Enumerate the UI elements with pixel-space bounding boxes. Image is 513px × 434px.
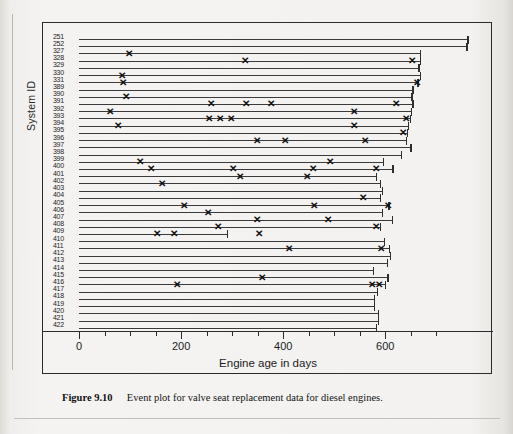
y-axis-tick-label: 409 bbox=[53, 227, 64, 234]
y-axis-tick-label: 408 bbox=[53, 220, 64, 227]
lifetime-line bbox=[79, 227, 380, 228]
lifetime-line bbox=[79, 306, 374, 307]
lifetime-line bbox=[79, 299, 374, 300]
lifetime-line bbox=[79, 220, 392, 221]
x-tick-label: 0 bbox=[76, 340, 82, 352]
lifetime-line bbox=[79, 198, 380, 199]
y-axis-tick-label: 392 bbox=[53, 105, 64, 112]
x-axis: 0200400600 Engine age in days bbox=[43, 331, 493, 375]
y-axis-tick-label: 398 bbox=[53, 148, 64, 155]
y-axis-tick-label: 400 bbox=[53, 162, 64, 169]
y-axis-tick-label: 418 bbox=[53, 292, 64, 299]
y-axis-tick-label: 422 bbox=[53, 321, 64, 328]
lifetime-line bbox=[79, 205, 388, 206]
lifetime-line bbox=[79, 313, 378, 314]
x-tick-minor bbox=[232, 332, 233, 336]
y-axis-tick-label: 402 bbox=[53, 177, 64, 184]
x-tick-minor bbox=[258, 332, 259, 336]
lifetime-line bbox=[79, 321, 378, 322]
figure-frame: System ID 251252327✕328✕✕329330✕331✕✕389… bbox=[42, 22, 492, 374]
x-tick-minor bbox=[105, 332, 106, 336]
y-axis-tick-label: 328 bbox=[53, 54, 64, 61]
y-axis-tick-label: 252 bbox=[53, 40, 64, 47]
lifetime-line bbox=[79, 191, 382, 192]
y-axis-tick-label: 397 bbox=[53, 141, 64, 148]
lifetime-line bbox=[79, 140, 406, 141]
y-axis-tick-label: 412 bbox=[53, 249, 64, 256]
lifetime-line bbox=[79, 263, 387, 264]
y-axis-tick-label: 389 bbox=[53, 83, 64, 90]
y-axis-tick-label: 413 bbox=[53, 256, 64, 263]
lifetime-line bbox=[79, 176, 376, 177]
x-tick-major bbox=[79, 332, 80, 339]
lifetime-line bbox=[79, 46, 466, 47]
x-tick-major bbox=[283, 332, 284, 339]
plot-area: 251252327✕328✕✕329330✕331✕✕389390✕391✕✕✕… bbox=[43, 23, 493, 375]
figure-caption: Figure 9.10 Event plot for valve seat re… bbox=[62, 392, 462, 403]
y-axis-tick-label: 420 bbox=[53, 307, 64, 314]
y-axis-tick-label: 421 bbox=[53, 314, 64, 321]
x-tick-minor bbox=[156, 332, 157, 336]
y-axis-tick-label: 327 bbox=[53, 47, 64, 54]
x-tick-label: 400 bbox=[274, 340, 292, 352]
lifetime-line bbox=[79, 68, 418, 69]
lifetime-line bbox=[79, 133, 407, 134]
y-axis-tick-label: 416 bbox=[53, 278, 64, 285]
x-tick-label: 200 bbox=[172, 340, 190, 352]
y-axis-tick-label: 401 bbox=[53, 170, 64, 177]
x-tick-minor bbox=[130, 332, 131, 336]
y-axis-tick-label: 407 bbox=[53, 213, 64, 220]
lifetime-line bbox=[79, 284, 385, 285]
x-tick-label: 600 bbox=[376, 340, 394, 352]
y-axis-tick-label: 414 bbox=[53, 264, 64, 271]
y-axis-tick-label: 399 bbox=[53, 155, 64, 162]
y-axis-tick-label: 396 bbox=[53, 134, 64, 141]
lifetime-line bbox=[79, 277, 387, 278]
y-axis-tick-label: 405 bbox=[53, 199, 64, 206]
x-axis-line bbox=[43, 331, 493, 332]
event-rows: 251252327✕328✕✕329330✕331✕✕389390✕391✕✕✕… bbox=[43, 23, 493, 375]
y-axis-tick-label: 411 bbox=[53, 242, 63, 249]
lifetime-line bbox=[79, 155, 401, 156]
y-axis-tick-label: 404 bbox=[53, 191, 64, 198]
x-tick-minor bbox=[411, 332, 412, 336]
y-axis-tick-label: 410 bbox=[53, 235, 64, 242]
y-axis-tick-label: 390 bbox=[53, 90, 64, 97]
x-tick-major bbox=[385, 332, 386, 339]
caption-figure-number: Figure 9.10 bbox=[62, 392, 113, 403]
y-axis-tick-label: 419 bbox=[53, 300, 64, 307]
lifetime-line bbox=[79, 256, 390, 257]
y-axis-tick-label: 406 bbox=[53, 206, 64, 213]
y-axis-tick-label: 331 bbox=[53, 76, 64, 83]
y-axis-label: System ID bbox=[25, 81, 37, 131]
lifetime-line bbox=[79, 75, 420, 76]
x-tick-minor bbox=[360, 332, 361, 336]
lifetime-line bbox=[79, 328, 376, 329]
lifetime-line bbox=[79, 126, 408, 127]
lifetime-line bbox=[79, 241, 384, 242]
caption-description: Event plot for valve seat replacement da… bbox=[127, 392, 383, 403]
x-tick-minor bbox=[436, 332, 437, 336]
scan-edge-left bbox=[12, 14, 13, 370]
y-axis-tick-label: 391 bbox=[53, 97, 64, 104]
lifetime-line bbox=[79, 82, 417, 83]
y-axis-tick-label: 251 bbox=[53, 33, 64, 40]
lifetime-line bbox=[79, 183, 380, 184]
y-axis-tick-label: 394 bbox=[53, 119, 64, 126]
x-tick-minor bbox=[207, 332, 208, 336]
lifetime-line bbox=[79, 147, 410, 148]
x-tick-minor bbox=[309, 332, 310, 336]
y-axis-tick-label: 329 bbox=[53, 61, 64, 68]
y-axis-tick-label: 393 bbox=[53, 112, 64, 119]
lifetime-line bbox=[79, 292, 377, 293]
x-axis-label: Engine age in days bbox=[43, 357, 493, 369]
y-axis-tick-label: 417 bbox=[53, 285, 64, 292]
lifetime-line bbox=[79, 118, 410, 119]
lifetime-line bbox=[79, 39, 467, 40]
lifetime-line bbox=[79, 270, 373, 271]
y-axis-tick-label: 403 bbox=[53, 184, 64, 191]
lifetime-line bbox=[79, 212, 382, 213]
lifetime-line bbox=[79, 248, 389, 249]
y-axis-tick-label: 395 bbox=[53, 126, 64, 133]
x-tick-major bbox=[181, 332, 182, 339]
